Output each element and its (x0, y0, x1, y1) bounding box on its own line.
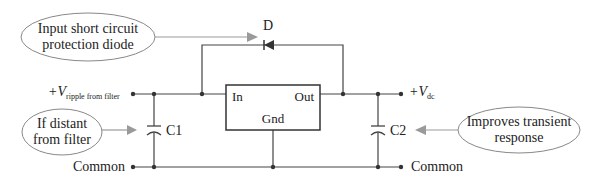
circuit-diagram: Input short circuit protection diode If … (0, 0, 600, 186)
c1-label: C1 (166, 123, 182, 138)
callout-c2-line1: Improves transient (467, 114, 572, 129)
callout-diode: Input short circuit protection diode (21, 13, 258, 61)
diode-icon (264, 40, 274, 50)
callout-c1-line2: from filter (33, 132, 91, 147)
arrowhead-icon (247, 32, 258, 42)
vout-label: +Vdc (409, 84, 435, 101)
callout-c1: If distant from filter (22, 109, 137, 155)
regulator-gnd-label: Gnd (262, 111, 285, 126)
callout-diode-line1: Input short circuit (38, 21, 138, 36)
callout-diode-line2: protection diode (42, 37, 133, 52)
arrowhead-icon (127, 125, 137, 135)
regulator-out-label: Out (295, 89, 315, 104)
callout-c2: Improves transient response (415, 107, 580, 153)
common-left-label: Common (73, 159, 125, 174)
callout-c1-line1: If distant (37, 116, 87, 131)
regulator-in-label: In (232, 89, 243, 104)
vin-label: +Vripple from filter (48, 84, 120, 101)
c2-label: C2 (390, 123, 406, 138)
common-right-label: Common (411, 159, 463, 174)
callout-c2-line2: response (495, 130, 544, 145)
diode-label: D (263, 18, 273, 33)
arrowhead-icon (415, 125, 426, 135)
